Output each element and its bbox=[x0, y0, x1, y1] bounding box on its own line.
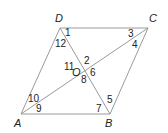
angle-label-2: 2 bbox=[84, 55, 90, 66]
angle-label-6: 6 bbox=[90, 67, 96, 78]
angle-label-12: 12 bbox=[55, 38, 67, 49]
angle-label-5: 5 bbox=[107, 94, 113, 105]
angle-labels: 123456789101112 bbox=[28, 27, 138, 114]
angle-label-9: 9 bbox=[36, 103, 42, 114]
vertex-label-b: B bbox=[105, 117, 112, 129]
angle-label-11: 11 bbox=[64, 61, 75, 72]
angle-label-3: 3 bbox=[128, 28, 134, 39]
angle-label-8: 8 bbox=[81, 74, 87, 85]
vertex-label-a: A bbox=[13, 117, 21, 129]
vertex-label-c: C bbox=[149, 12, 157, 24]
angle-label-1: 1 bbox=[65, 27, 71, 38]
angle-label-10: 10 bbox=[28, 93, 40, 104]
angle-label-4: 4 bbox=[132, 39, 138, 50]
vertex-label-d: D bbox=[55, 12, 63, 24]
parallelogram-diagram: DCABO 123456789101112 bbox=[0, 0, 168, 133]
angle-label-7: 7 bbox=[96, 103, 102, 114]
